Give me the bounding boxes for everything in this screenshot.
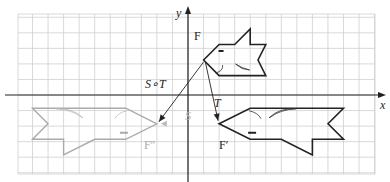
transformation-t-arrowhead-icon [214, 113, 220, 120]
figure-f: F [194, 29, 266, 76]
y-axis-label: y [175, 6, 182, 20]
figure-f-double-prime-mouth [115, 111, 127, 119]
figure-f-label: F [194, 29, 201, 43]
transformation-s-o-t-arrow [159, 62, 204, 122]
figure-f-double-prime-label: F″ [144, 138, 156, 152]
x-axis-label: x [379, 98, 386, 112]
figure-f-fin [236, 64, 250, 70]
figure-f-prime-fin [269, 109, 296, 118]
figure-f-prime-label: F′ [219, 138, 229, 152]
transformation-t-label: T [214, 96, 222, 110]
transformation-s-o-t-label: S∘T [145, 77, 167, 91]
transformation-s-label: S [185, 109, 191, 123]
transformation-s-o-t-arrowhead-icon [159, 114, 166, 121]
coordinate-diagram: x y F F′ F″ T S∘T S [0, 0, 390, 182]
figure-f-prime-mouth [249, 111, 261, 119]
y-axis-arrow-icon [185, 6, 191, 14]
